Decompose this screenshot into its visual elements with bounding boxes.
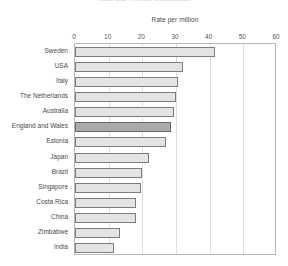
category-label: Sweden <box>45 47 69 55</box>
x-tick-label: 30 <box>171 33 178 40</box>
bar <box>75 77 178 87</box>
y-axis-category-labels: SwedenUSAItalyThe NetherlandsAustraliaEn… <box>0 43 71 255</box>
bar <box>75 243 114 253</box>
category-label: England and Wales <box>12 122 68 130</box>
category-label: Italy <box>56 77 68 85</box>
bar <box>75 213 136 223</box>
bar <box>75 228 120 238</box>
bar <box>75 47 215 57</box>
bar <box>75 62 183 72</box>
category-label: The Netherlands <box>20 92 68 100</box>
bar-chart: Rate per million population Rate per mil… <box>0 0 288 266</box>
category-label: Japan <box>50 153 68 161</box>
bar <box>75 122 171 132</box>
x-tick-label: 0 <box>72 33 76 40</box>
category-label: Singapore <box>38 183 68 191</box>
bars-layer <box>75 44 275 254</box>
category-label: Brazil <box>52 168 68 176</box>
bar <box>75 92 176 102</box>
x-axis-title: Rate per million <box>74 16 276 23</box>
x-axis-tick-labels: 0102030405060 <box>0 33 288 43</box>
bar <box>75 107 174 117</box>
x-tick-label: 10 <box>104 33 111 40</box>
category-label: China <box>51 213 68 221</box>
category-label: India <box>54 243 68 251</box>
category-label: Estonia <box>46 137 68 145</box>
x-tick-label: 60 <box>272 33 279 40</box>
bar <box>75 168 142 178</box>
plot-area <box>74 43 276 255</box>
category-label: Costa Rica <box>36 198 68 206</box>
bar <box>75 198 136 208</box>
category-label: USA <box>55 62 68 70</box>
chart-title: Rate per million population <box>0 0 288 1</box>
bar <box>75 183 141 193</box>
x-tick-label: 40 <box>205 33 212 40</box>
bar <box>75 137 166 147</box>
category-label: Australia <box>43 107 68 115</box>
x-tick-label: 20 <box>138 33 145 40</box>
x-tick-label: 50 <box>239 33 246 40</box>
category-label: Zimbabwe <box>38 228 68 236</box>
bar <box>75 153 149 163</box>
